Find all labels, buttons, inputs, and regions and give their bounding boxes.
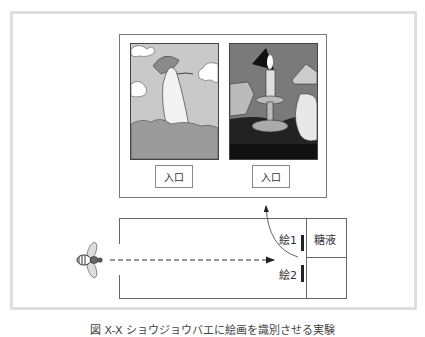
exit-arrow xyxy=(266,206,298,257)
figure-caption: 図 X-X ショウジョウバエに絵画を識別させる実験 xyxy=(0,321,425,337)
fruit-fly-icon xyxy=(72,242,108,278)
